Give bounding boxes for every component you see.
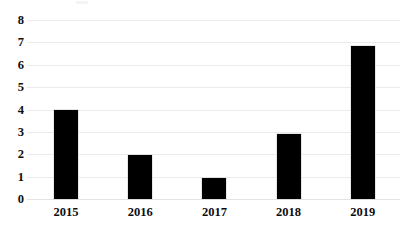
x-axis-tick-label: 2017: [179, 203, 249, 222]
bar: [202, 178, 226, 199]
y-axis-tick-label: 5: [2, 81, 24, 94]
x-axis: 20152016201720182019: [0, 203, 407, 227]
y-axis-tick-label: 3: [2, 126, 24, 139]
bar: [54, 110, 78, 200]
x-axis-tick-label: 2019: [328, 203, 398, 222]
gridline: [27, 154, 400, 155]
gridline: [27, 20, 400, 21]
x-axis-tick-label: 2016: [105, 203, 175, 222]
gridline: [27, 87, 400, 88]
gridline: [27, 65, 400, 66]
bar: [128, 155, 152, 199]
y-axis: 012345678: [0, 20, 24, 199]
gridline: [27, 110, 400, 111]
y-axis-tick-label: 6: [2, 59, 24, 72]
y-axis-tick-label: 2: [2, 148, 24, 161]
bar-chart: 012345678 20152016201720182019: [0, 0, 407, 231]
cropped-title-remnant: [76, 1, 88, 4]
gridline: [27, 199, 400, 200]
y-axis-tick-label: 4: [2, 103, 24, 116]
gridline: [27, 132, 400, 133]
gridline: [27, 42, 400, 43]
x-axis-tick-label: 2018: [254, 203, 324, 222]
bar: [277, 134, 301, 199]
x-axis-tick-label: 2015: [31, 203, 101, 222]
bar: [351, 46, 375, 199]
plot-area: [27, 20, 400, 199]
y-axis-tick-label: 1: [2, 170, 24, 183]
y-axis-tick-label: 7: [2, 36, 24, 49]
y-axis-tick-label: 8: [2, 14, 24, 27]
